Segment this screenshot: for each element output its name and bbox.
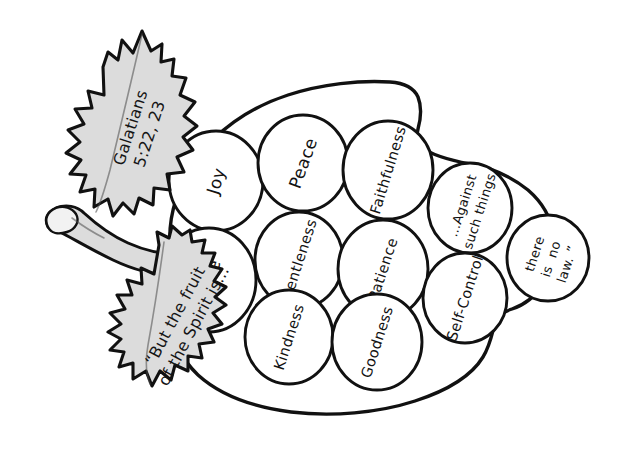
coloring-page-canvas: Joy Peace Faithfulness Love Gentleness: [0, 0, 628, 454]
stem-opening: [46, 207, 77, 234]
fruit-of-the-spirit-illustration: Joy Peace Faithfulness Love Gentleness: [0, 0, 628, 454]
grape-peace[interactable]: Peace: [258, 115, 348, 211]
grape-there-is-no-law[interactable]: there is no law. ”: [507, 215, 589, 301]
grape-goodness[interactable]: Goodness: [332, 294, 422, 390]
grape-kindness[interactable]: Kindness: [245, 290, 333, 384]
grape-self-control[interactable]: Self-Control: [423, 253, 507, 343]
grape-faithfulness[interactable]: Faithfulness: [343, 121, 433, 219]
grape-against-such-things[interactable]: …Against such things: [428, 163, 512, 253]
